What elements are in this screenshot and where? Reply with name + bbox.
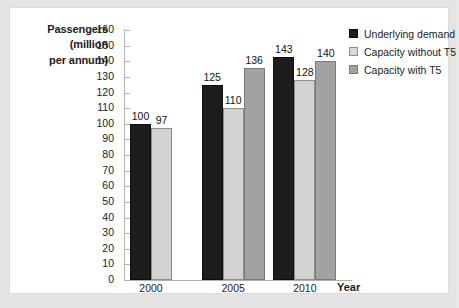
bar: [273, 57, 294, 280]
y-axis-tick-label: 40: [84, 211, 114, 223]
bar: [223, 108, 244, 280]
y-axis-tick-label: 20: [84, 242, 114, 254]
y-axis-tick-label: 90: [84, 132, 114, 144]
chart-legend: Underlying demandCapacity without T5Capa…: [349, 26, 459, 80]
y-axis-tick-label: 100: [84, 117, 114, 129]
y-axis-tick-label: 130: [84, 70, 114, 82]
y-axis-tick-label: 160: [84, 23, 114, 35]
bar-value-label: 125: [196, 71, 229, 83]
bar-value-label: 136: [238, 54, 271, 66]
legend-item: Capacity with T5: [349, 62, 459, 77]
legend-item: Capacity without T5: [349, 44, 459, 59]
bar: [151, 128, 172, 280]
legend-swatch: [349, 65, 358, 74]
y-axis-tick-label: 140: [84, 54, 114, 66]
y-axis-tick-label: 110: [84, 101, 114, 113]
bar-value-label: 140: [309, 47, 342, 59]
x-axis-category-label: 2000: [122, 282, 180, 294]
legend-label: Underlying demand: [364, 28, 455, 40]
legend-swatch: [349, 47, 358, 56]
legend-item: Underlying demand: [349, 26, 459, 41]
bar: [130, 124, 151, 280]
bar: [202, 85, 223, 280]
y-axis-tick-label: 10: [84, 257, 114, 269]
y-axis-tick-label: 0: [84, 273, 114, 285]
y-axis-tick-label: 50: [84, 195, 114, 207]
bar-value-label: 110: [217, 94, 250, 106]
x-axis-line: [124, 280, 352, 281]
y-axis-tick-label: 70: [84, 164, 114, 176]
y-axis-tick-label: 150: [84, 39, 114, 51]
x-axis-category-label: 2010: [265, 282, 344, 294]
y-axis-tick-mark: [125, 280, 130, 281]
legend-label: Capacity with T5: [364, 64, 441, 76]
y-axis-tick-label: 30: [84, 226, 114, 238]
legend-swatch: [349, 29, 358, 38]
y-axis-tick-label: 120: [84, 86, 114, 98]
bar: [315, 61, 336, 280]
y-axis-tick-label: 80: [84, 148, 114, 160]
y-axis-tick-label: 60: [84, 179, 114, 191]
bar-value-label: 128: [288, 66, 321, 78]
chart-panel: Passengers (million per annum) Year 1601…: [10, 8, 448, 293]
legend-label: Capacity without T5: [364, 46, 456, 58]
bar-value-label: 143: [267, 43, 300, 55]
bar-value-label: 97: [145, 114, 178, 126]
x-axis-category-label: 2005: [194, 282, 273, 294]
bar: [294, 80, 315, 280]
